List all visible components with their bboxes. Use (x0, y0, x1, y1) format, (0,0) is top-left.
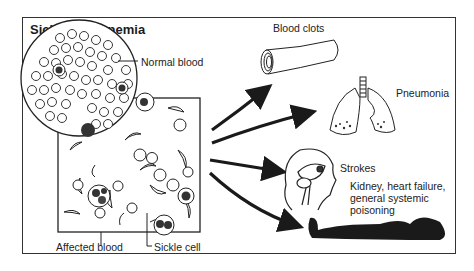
head-brain-icon (285, 149, 336, 210)
affected-blood-label: Affected blood (56, 241, 123, 253)
arrow-to-body (210, 173, 295, 225)
blood-vessel-icon (261, 40, 338, 74)
lungs-icon (330, 77, 395, 135)
reclining-body-icon (308, 217, 445, 240)
arrow-to-strokes (210, 160, 278, 171)
diagram-artwork (0, 0, 474, 271)
blood-clots-label: Blood clots (273, 22, 324, 34)
strokes-label: Strokes (340, 162, 376, 174)
organ-failure-label: Kidney, heart failure, general systemic … (350, 180, 460, 216)
arrow-to-pneumonia (212, 113, 308, 143)
pneumonia-label: Pneumonia (396, 87, 449, 99)
arrow-to-blood-clots (212, 90, 265, 130)
normal-blood-label: Normal blood (141, 56, 203, 68)
normal-blood-sample (21, 20, 137, 137)
sickle-cell-label: Sickle cell (154, 241, 201, 253)
